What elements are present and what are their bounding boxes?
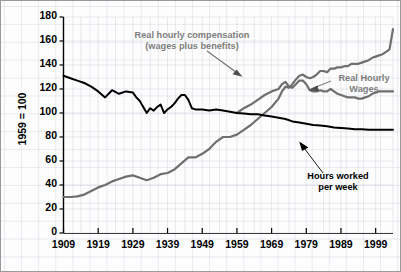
y-tick-label: 20 bbox=[31, 202, 57, 214]
hours-annotation: Hours worked per week bbox=[301, 171, 375, 193]
x-tick-label: 1999 bbox=[356, 239, 396, 251]
wages-annotation-line2: Wages bbox=[332, 84, 396, 95]
y-tick-label: 120 bbox=[31, 82, 57, 94]
compensation-annotation-line1: Real hourly compensation bbox=[127, 30, 257, 41]
y-tick-label: 80 bbox=[31, 130, 57, 142]
y-tick-label: 160 bbox=[31, 34, 57, 46]
hours-annotation-line2: per week bbox=[301, 182, 375, 193]
y-tick-label: 0 bbox=[31, 226, 57, 238]
chart-figure: 1959 = 100 180160140120100806040200 1909… bbox=[0, 0, 401, 272]
y-tick-label: 140 bbox=[31, 58, 57, 70]
hours-arrow-head bbox=[299, 142, 308, 151]
y-tick-label: 100 bbox=[31, 106, 57, 118]
y-tick-label: 180 bbox=[31, 10, 57, 22]
wages-annotation-line1: Real Hourly bbox=[332, 73, 396, 84]
compensation-annotation-line2: (wages plus benefits) bbox=[127, 41, 257, 52]
y-tick-label: 40 bbox=[31, 178, 57, 190]
hours-annotation-line1: Hours worked bbox=[301, 171, 375, 182]
y-axis-title: 1959 = 100 bbox=[16, 76, 28, 162]
wages-annotation: Real Hourly Wages bbox=[332, 73, 396, 95]
y-tick-label: 60 bbox=[31, 154, 57, 166]
compensation-annotation: Real hourly compensation (wages plus ben… bbox=[127, 30, 257, 52]
